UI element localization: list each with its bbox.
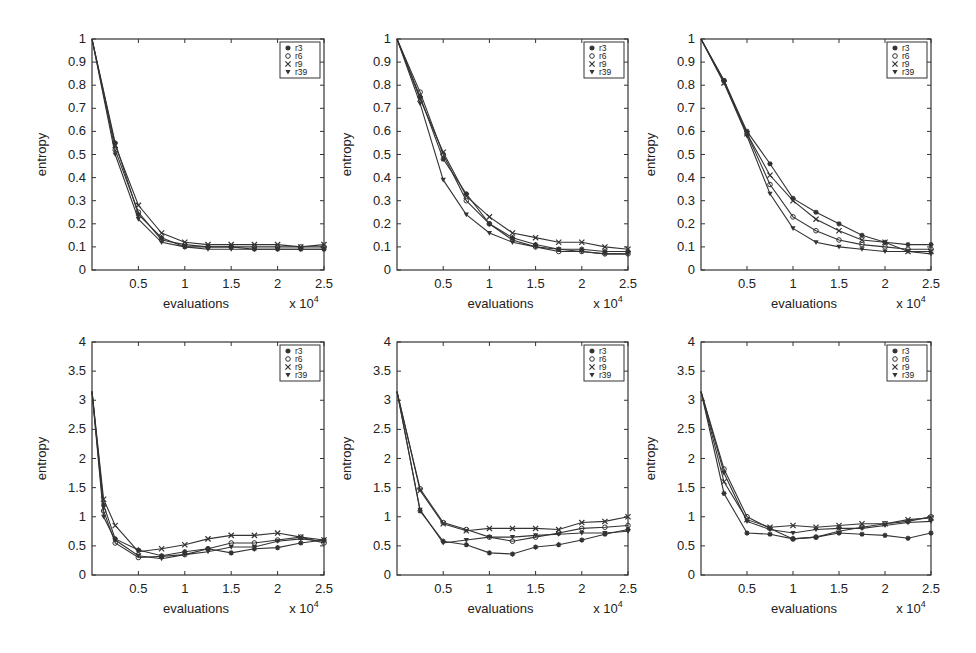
- marker-star-icon: [767, 161, 772, 166]
- x-tick-label: 2.5: [619, 276, 637, 291]
- y-tick-label: 0.6: [68, 123, 86, 138]
- y-tick-label: 0.1: [68, 239, 86, 254]
- y-tick-label: 0: [384, 262, 391, 277]
- marker-star-icon: [533, 544, 538, 549]
- marker-star-icon: [464, 542, 469, 547]
- y-tick-label: 0.2: [68, 216, 86, 231]
- x-tick-label: 0.5: [434, 276, 452, 291]
- y-tick-label: 0.4: [68, 170, 86, 185]
- x-tick-label: 1: [789, 581, 796, 596]
- marker-star-icon: [744, 530, 749, 535]
- x-tick-label: 0.5: [738, 581, 756, 596]
- marker-star-icon: [285, 45, 290, 50]
- y-tick-label: 3: [688, 392, 695, 407]
- y-tick-label: 0.7: [373, 100, 391, 115]
- x-tick-label: 1: [181, 276, 188, 291]
- y-tick-label: 0.5: [677, 147, 695, 162]
- x-tick-label: 1.5: [527, 581, 545, 596]
- y-tick-label: 0.6: [373, 123, 391, 138]
- y-tick-label: 2: [688, 451, 695, 466]
- marker-star-icon: [905, 536, 910, 541]
- legend: r3r6r9r39: [280, 42, 320, 78]
- y-tick-label: 1: [688, 509, 695, 524]
- y-tick-label: 1: [79, 509, 86, 524]
- x-tick-label: 1.5: [222, 276, 240, 291]
- legend: r3r6r9r39: [280, 345, 320, 381]
- marker-star-icon: [589, 45, 594, 50]
- chart-panel-top-middle: 00.10.20.30.40.50.60.70.80.910.511.522.5…: [339, 31, 637, 311]
- y-tick-label: 0: [79, 262, 86, 277]
- x-tick-label: 1: [181, 581, 188, 596]
- x-tick-label: 1: [789, 276, 796, 291]
- marker-star-icon: [859, 233, 864, 238]
- marker-star-icon: [721, 491, 726, 496]
- y-tick-label: 4: [688, 334, 695, 349]
- y-tick-label: 1: [384, 31, 391, 46]
- y-tick-label: 2.5: [68, 421, 86, 436]
- y-tick-label: 1.5: [373, 480, 391, 495]
- y-tick-label: 0.5: [677, 538, 695, 553]
- y-tick-label: 1: [384, 509, 391, 524]
- x-axis-label: evaluations: [468, 296, 534, 311]
- x-tick-label: 1.5: [222, 581, 240, 596]
- y-tick-label: 0.9: [68, 54, 86, 69]
- x-tick-label: 2: [881, 276, 888, 291]
- x-tick-label: 1: [486, 276, 493, 291]
- legend: r3r6r9r39: [887, 345, 927, 381]
- x-axis-label: evaluations: [771, 296, 837, 311]
- y-axis-label: entropy: [339, 132, 354, 176]
- y-tick-label: 0.7: [677, 100, 695, 115]
- x-multiplier-label: x 104: [289, 599, 319, 616]
- y-tick-label: 0: [688, 567, 695, 582]
- legend-label-r39: r39: [599, 67, 612, 77]
- y-tick-label: 1.5: [677, 480, 695, 495]
- y-tick-label: 2.5: [677, 421, 695, 436]
- x-multiplier-label: x 104: [896, 294, 926, 311]
- y-tick-label: 3: [384, 392, 391, 407]
- y-tick-label: 0.5: [68, 538, 86, 553]
- chart-panel-bottom-left: 00.511.522.533.540.511.522.5evaluationsx…: [34, 334, 333, 616]
- marker-star-icon: [229, 550, 234, 555]
- y-tick-label: 0.5: [68, 147, 86, 162]
- y-tick-label: 0: [688, 262, 695, 277]
- x-tick-label: 0.5: [738, 276, 756, 291]
- x-multiplier-label: x 104: [593, 599, 623, 616]
- y-tick-label: 3.5: [677, 363, 695, 378]
- y-tick-label: 0.8: [677, 77, 695, 92]
- x-multiplier-label: x 104: [896, 599, 926, 616]
- marker-star-icon: [275, 545, 280, 550]
- y-axis-label: entropy: [339, 436, 354, 480]
- x-tick-label: 2.5: [315, 276, 333, 291]
- y-tick-label: 4: [79, 334, 86, 349]
- legend-label-r39: r39: [295, 370, 308, 380]
- legend-label-r39: r39: [902, 370, 915, 380]
- chart-panel-bottom-right: 00.511.522.533.540.511.522.5evaluationsx…: [643, 334, 940, 616]
- y-tick-label: 0.3: [68, 193, 86, 208]
- marker-star-icon: [510, 551, 515, 556]
- marker-star-icon: [905, 242, 910, 247]
- y-tick-label: 3: [79, 392, 86, 407]
- y-tick-label: 0.8: [68, 77, 86, 92]
- marker-star-icon: [556, 542, 561, 547]
- x-tick-label: 2: [578, 581, 585, 596]
- y-tick-label: 1: [79, 31, 86, 46]
- x-axis-label: evaluations: [163, 601, 229, 616]
- y-tick-label: 3.5: [373, 363, 391, 378]
- chart-panel-bottom-middle: 00.511.522.533.540.511.522.5evaluationsx…: [339, 334, 637, 616]
- x-tick-label: 2.5: [922, 276, 940, 291]
- y-tick-label: 0.6: [677, 123, 695, 138]
- x-multiplier-label: x 104: [593, 294, 623, 311]
- chart-panel-top-right: 00.10.20.30.40.50.60.70.80.910.511.522.5…: [643, 31, 940, 311]
- y-tick-label: 0.3: [677, 193, 695, 208]
- y-tick-label: 0.8: [373, 77, 391, 92]
- y-tick-label: 0.1: [373, 239, 391, 254]
- x-tick-label: 0.5: [129, 276, 147, 291]
- x-tick-label: 2: [881, 581, 888, 596]
- marker-star-icon: [892, 348, 897, 353]
- x-tick-label: 0.5: [129, 581, 147, 596]
- y-tick-label: 1.5: [68, 480, 86, 495]
- legend: r3r6r9r39: [584, 345, 624, 381]
- marker-star-icon: [882, 533, 887, 538]
- y-tick-label: 0: [79, 567, 86, 582]
- y-axis-label: entropy: [643, 132, 658, 176]
